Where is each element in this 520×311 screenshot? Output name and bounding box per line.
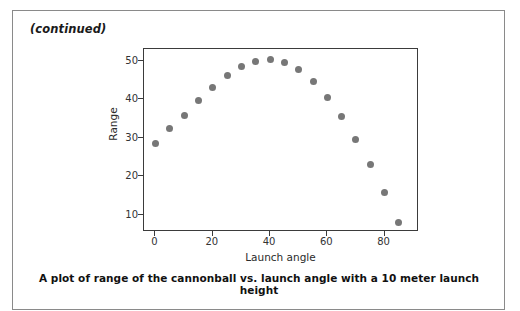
page-panel (12, 10, 505, 310)
figure-caption: A plot of range of the cannonball vs. la… (30, 272, 488, 296)
continued-label: (continued) (30, 22, 106, 36)
